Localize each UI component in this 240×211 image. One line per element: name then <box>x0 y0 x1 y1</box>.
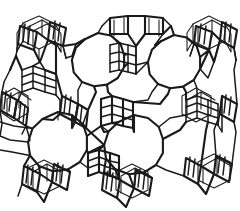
figure-container <box>0 0 240 211</box>
zeolite-framework-drawing <box>0 0 240 211</box>
